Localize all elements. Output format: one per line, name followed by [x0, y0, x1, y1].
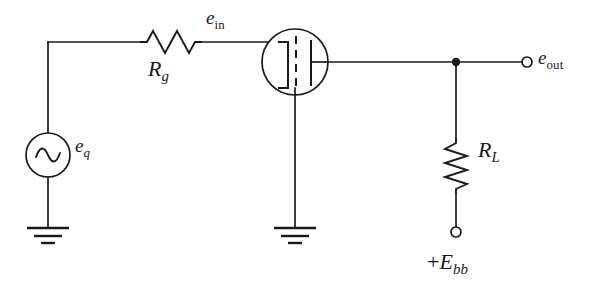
label-rg-symbol: R [148, 56, 161, 81]
label-e-out: eout [538, 48, 564, 72]
ground-symbol-center [274, 228, 316, 243]
label-rg-subscript: g [161, 68, 169, 84]
output-terminal-circle[interactable] [522, 57, 532, 67]
label-eq-subscript: q [83, 145, 90, 160]
label-resistor-rg: Rg [148, 58, 169, 84]
vacuum-tube-triode [262, 29, 328, 95]
label-rl-symbol: R [478, 137, 491, 162]
load-resistor-rl [445, 138, 467, 194]
resistor-zigzag-horizontal [140, 31, 202, 53]
label-rl-subscript: L [491, 149, 500, 165]
label-supply-ebb: +Ebb [427, 251, 468, 277]
label-e-out-subscript: out [546, 57, 563, 72]
ground-symbol-left [27, 228, 69, 243]
circuit-diagram: ein Rg eq eout RL +Ebb [0, 0, 590, 293]
grid-resistor-rg [140, 31, 202, 53]
resistor-zigzag-vertical [445, 138, 467, 194]
label-e-in-subscript: in [214, 17, 224, 32]
label-ebb-subscript: bb [453, 261, 468, 277]
label-resistor-rl: RL [478, 139, 500, 165]
label-ebb-symbol: E [439, 249, 452, 274]
supply-terminal-circle[interactable] [451, 227, 461, 237]
label-ebb-prefix: + [427, 249, 439, 274]
label-source-eq: eq [75, 136, 90, 160]
label-e-in: ein [206, 8, 225, 32]
ac-source-eq [26, 133, 70, 177]
